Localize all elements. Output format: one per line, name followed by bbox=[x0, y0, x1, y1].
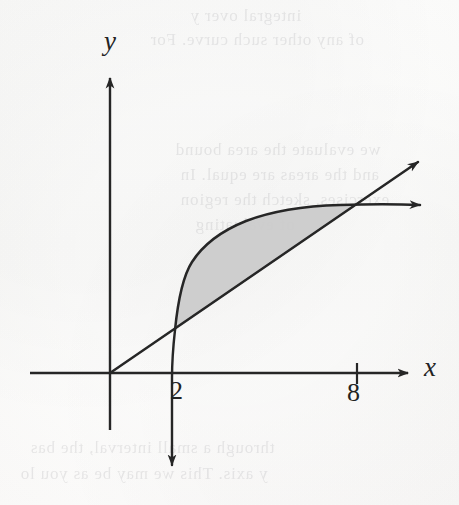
figure-container: integral over yof any other such curve. … bbox=[0, 0, 459, 505]
y-axis-label: y bbox=[104, 26, 116, 57]
x-tick-label-8: 8 bbox=[347, 378, 360, 408]
x-tick-label-2: 2 bbox=[170, 376, 183, 406]
plot-canvas bbox=[0, 0, 459, 505]
line-series bbox=[110, 162, 418, 373]
x-axis-label: x bbox=[424, 352, 436, 383]
